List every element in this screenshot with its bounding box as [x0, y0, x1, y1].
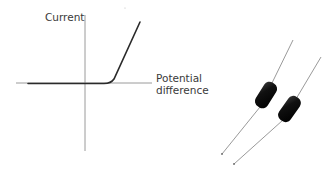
characteristic-curve [28, 22, 140, 84]
diodes-photo [200, 30, 327, 180]
iv-graph: Current Potential difference [0, 0, 210, 180]
diodes-illustration [200, 30, 327, 180]
diode-1 [221, 40, 293, 155]
speck [124, 7, 125, 8]
y-axis-label: Current [45, 11, 84, 23]
